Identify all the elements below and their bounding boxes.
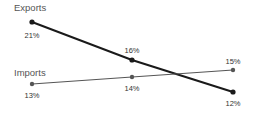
series-label-exports: Exports [14,2,46,13]
exports-point [129,57,134,62]
exports-value-label: 12% [225,99,240,108]
imports-point [231,68,235,72]
exports-point [29,19,34,24]
imports-point [30,82,34,86]
imports-value-label: 14% [124,84,139,93]
series-label-imports: Imports [14,67,46,78]
imports-point [130,75,134,79]
exports-value-label: 21% [24,31,39,40]
exports-point [230,89,235,94]
imports-value-label: 13% [24,91,39,100]
slope-chart: Exports 21% 16% 12% Imports 13% 14% 15% [0,0,262,117]
exports-value-label: 16% [124,46,139,55]
imports-value-label: 15% [225,57,240,66]
